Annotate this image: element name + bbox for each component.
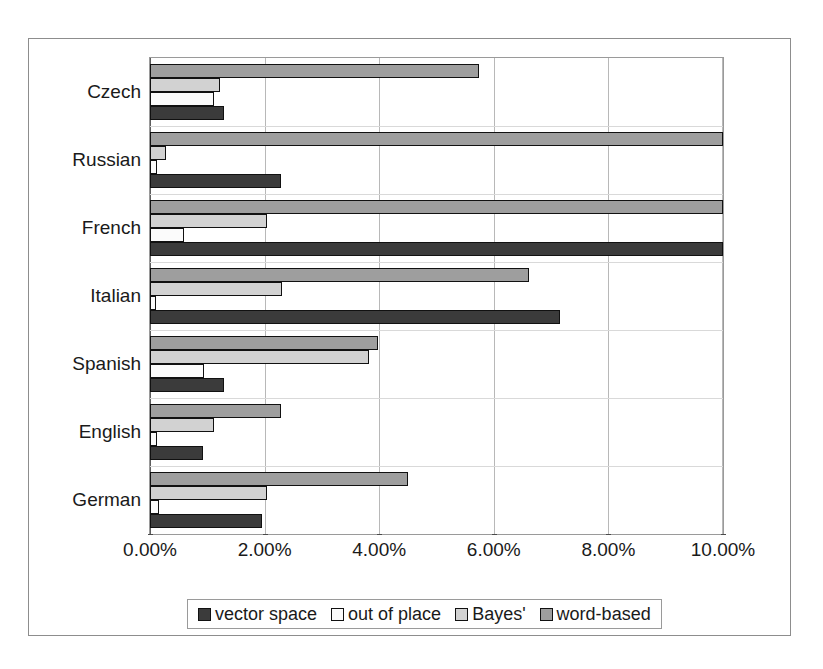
bar[interactable]	[150, 404, 281, 418]
bar-group	[150, 194, 723, 262]
bar[interactable]	[150, 214, 267, 228]
bar-slot	[150, 214, 723, 228]
bar[interactable]	[150, 268, 529, 282]
bar[interactable]	[150, 64, 479, 78]
legend-swatch-icon	[331, 608, 344, 621]
bar-slot	[150, 364, 723, 378]
bar[interactable]	[150, 282, 282, 296]
bar-slot	[150, 310, 723, 324]
category-label-french: French	[82, 218, 141, 237]
bar-slot	[150, 268, 723, 282]
category-label-czech: Czech	[87, 82, 141, 101]
x-tick-label: 8.00%	[581, 539, 635, 561]
bar-group	[150, 262, 723, 330]
category-label-italian: Italian	[90, 286, 141, 305]
bar-slot	[150, 336, 723, 350]
bar[interactable]	[150, 514, 262, 528]
bar[interactable]	[150, 78, 220, 92]
x-tick-mark	[606, 534, 611, 535]
bar[interactable]	[150, 350, 369, 364]
figure-frame: CzechRussianFrenchItalianSpanishEnglishG…	[28, 38, 791, 636]
x-tick-label: 4.00%	[352, 539, 406, 561]
x-tick-mark	[492, 534, 497, 535]
bar-slot	[150, 160, 723, 174]
bar[interactable]	[150, 200, 723, 214]
bar[interactable]	[150, 446, 203, 460]
bar-slot	[150, 64, 723, 78]
legend-entry[interactable]: out of place	[331, 604, 441, 624]
legend-label: Bayes'	[472, 604, 525, 624]
legend-label: word-based	[557, 604, 651, 624]
bar[interactable]	[150, 500, 159, 514]
bar-slot	[150, 514, 723, 528]
bar[interactable]	[150, 242, 723, 256]
bar-slot	[150, 200, 723, 214]
category-label-english: English	[79, 422, 141, 441]
bar-slot	[150, 378, 723, 392]
bar-slot	[150, 228, 723, 242]
x-tick-mark	[721, 534, 726, 535]
bar-slot	[150, 296, 723, 310]
bar[interactable]	[150, 132, 723, 146]
bar-group	[150, 58, 723, 126]
bar-slot	[150, 78, 723, 92]
bar[interactable]	[150, 228, 184, 242]
bar-slot	[150, 500, 723, 514]
bar-slot	[150, 92, 723, 106]
legend-entry[interactable]: word-based	[540, 604, 651, 624]
category-label-german: German	[72, 490, 141, 509]
category-label-russian: Russian	[72, 150, 141, 169]
bar[interactable]	[150, 296, 156, 310]
bar-slot	[150, 486, 723, 500]
legend-swatch-icon	[198, 608, 211, 621]
bar-slot	[150, 146, 723, 160]
bar[interactable]	[150, 418, 214, 432]
legend-label: out of place	[348, 604, 441, 624]
chart-legend: vector spaceout of placeBayes'word-based	[187, 599, 662, 629]
legend-swatch-icon	[540, 608, 553, 621]
category-label-spanish: Spanish	[72, 354, 141, 373]
bar-slot	[150, 282, 723, 296]
bar-group	[150, 466, 723, 534]
bar-slot	[150, 446, 723, 460]
bar[interactable]	[150, 378, 224, 392]
x-tick-label: 0.00%	[123, 539, 177, 561]
x-tick-label: 6.00%	[467, 539, 521, 561]
value-axis-labels: 0.00%2.00%4.00%6.00%8.00%10.00%	[149, 539, 724, 569]
bar[interactable]	[150, 160, 157, 174]
bar[interactable]	[150, 92, 214, 106]
bar-group	[150, 330, 723, 398]
bar-slot	[150, 132, 723, 146]
legend-entry[interactable]: vector space	[198, 604, 317, 624]
x-tick-mark	[377, 534, 382, 535]
bar-slot	[150, 404, 723, 418]
x-tick-mark	[148, 534, 153, 535]
bar[interactable]	[150, 310, 560, 324]
bar[interactable]	[150, 472, 408, 486]
bar-slot	[150, 472, 723, 486]
x-tick-label: 10.00%	[691, 539, 755, 561]
bar[interactable]	[150, 432, 157, 446]
bar-slot	[150, 242, 723, 256]
bar-slot	[150, 432, 723, 446]
bar[interactable]	[150, 364, 204, 378]
legend-swatch-icon	[455, 608, 468, 621]
bar-slot	[150, 106, 723, 120]
bar-group	[150, 126, 723, 194]
bar-slot	[150, 350, 723, 364]
bar[interactable]	[150, 486, 267, 500]
plot-area	[149, 57, 724, 535]
bar-slot	[150, 418, 723, 432]
legend-entry[interactable]: Bayes'	[455, 604, 525, 624]
plot-inner	[150, 58, 723, 534]
legend-label: vector space	[215, 604, 317, 624]
bar[interactable]	[150, 146, 166, 160]
bar[interactable]	[150, 174, 281, 188]
x-tick-label: 2.00%	[238, 539, 292, 561]
bar-group	[150, 398, 723, 466]
bar-slot	[150, 174, 723, 188]
bar[interactable]	[150, 106, 224, 120]
bar[interactable]	[150, 336, 378, 350]
category-axis-labels: CzechRussianFrenchItalianSpanishEnglishG…	[29, 57, 141, 535]
x-tick-mark	[263, 534, 268, 535]
